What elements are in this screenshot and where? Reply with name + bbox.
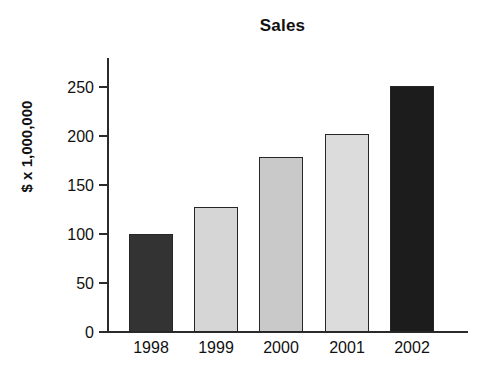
bar-1998 — [129, 234, 173, 332]
y-tick-label-200: 200 — [67, 128, 94, 146]
y-tick-label-100: 100 — [67, 226, 94, 244]
bar-2000 — [259, 157, 303, 332]
y-axis-line — [107, 58, 109, 333]
bar-2001 — [325, 134, 369, 332]
y-tick-label-50: 50 — [76, 275, 94, 293]
chart-title: Sales — [0, 16, 495, 36]
y-tick-label-0: 0 — [85, 324, 94, 342]
x-tick-label-1998: 1998 — [129, 339, 173, 357]
x-tick-label-2000: 2000 — [259, 339, 303, 357]
sales-bar-chart: Sales $ x 1,000,000 0 50 100 150 200 250… — [0, 0, 495, 378]
y-axis-title: $ x 1,000,000 — [18, 77, 35, 217]
x-tick-label-1999: 1999 — [194, 339, 238, 357]
y-tick-label-150: 150 — [67, 177, 94, 195]
y-tick-label-250: 250 — [67, 79, 94, 97]
x-tick-label-2001: 2001 — [325, 339, 369, 357]
chart-title-text: Sales — [260, 16, 305, 36]
x-tick-label-2002: 2002 — [390, 339, 434, 357]
bar-1999 — [194, 207, 238, 332]
bar-2002 — [390, 86, 434, 332]
